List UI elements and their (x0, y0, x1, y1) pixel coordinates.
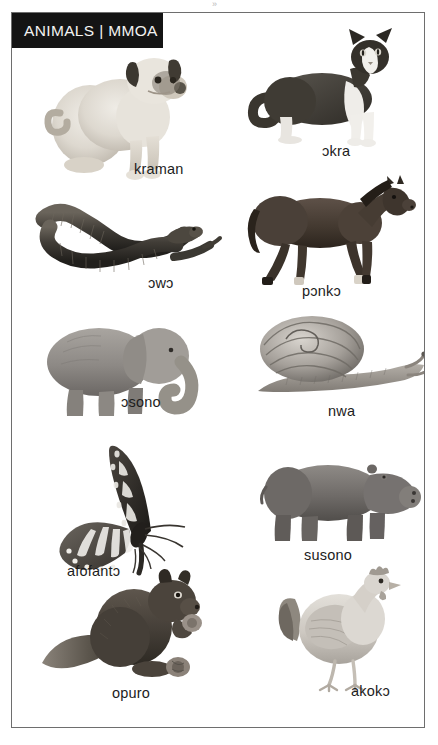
label-elephant: ɔsono (121, 394, 161, 410)
hippopotamus-photo (262, 455, 422, 547)
entry-dog[interactable]: kraman (42, 53, 212, 188)
chicken-photo (277, 571, 422, 691)
squirrel-photo (42, 575, 217, 683)
snail-photo (256, 313, 424, 405)
snake-photo (34, 201, 224, 293)
entry-elephant[interactable]: ɔsono (37, 318, 217, 433)
label-snail: nwa (328, 403, 355, 419)
entry-hippopotamus[interactable]: susono (262, 455, 424, 570)
entry-butterfly[interactable]: afofantɔ (47, 445, 217, 590)
entry-snake[interactable]: ɔwɔ (34, 201, 224, 301)
page-content: ANIMALS | MMOA (12, 13, 424, 727)
page-frame: ANIMALS | MMOA (11, 12, 425, 728)
horse-photo (242, 183, 422, 295)
scan-artifact-mark: » (212, 1, 226, 8)
label-hippopotamus: susono (304, 547, 352, 563)
entry-snail[interactable]: nwa (256, 313, 424, 428)
animal-grid: kraman (12, 13, 423, 726)
entry-horse[interactable]: pɔnkɔ (242, 183, 422, 303)
label-squirrel: opuro (112, 685, 150, 701)
cat-photo (250, 31, 410, 149)
entry-chicken[interactable]: akokɔ (277, 571, 424, 701)
label-dog: kraman (134, 161, 184, 177)
entry-squirrel[interactable]: opuro (42, 575, 222, 700)
butterfly-photo (47, 445, 212, 575)
label-cat: ɔkra (322, 143, 350, 159)
label-horse: pɔnkɔ (302, 283, 341, 299)
entry-cat[interactable]: ɔkra (250, 31, 410, 171)
label-snake: ɔwɔ (148, 275, 174, 291)
dog-photo (42, 53, 212, 183)
label-chicken: akokɔ (351, 683, 390, 699)
